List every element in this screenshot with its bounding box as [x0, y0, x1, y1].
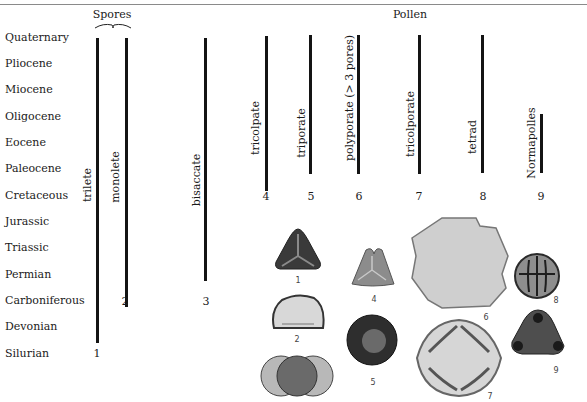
era-label: Pliocene [5, 58, 52, 70]
specimen-caption: 7 [487, 392, 492, 401]
range-bar-normapolles [540, 114, 543, 173]
specimen-polyporate-pollen [410, 216, 510, 310]
specimen-tetrad-pollen [513, 252, 561, 300]
specimen-normapolles-pollen [508, 308, 566, 358]
range-label-bisaccate: bisaccate [191, 154, 203, 207]
era-label: Miocene [5, 84, 53, 96]
range-bar-monolete [125, 38, 128, 307]
range-bar-tricolporate [418, 35, 421, 174]
range-bar-polyporate [357, 35, 360, 174]
pollen-header: Pollen [393, 8, 427, 21]
era-label: Quaternary [5, 32, 69, 44]
range-label-tetrad: tetrad [467, 120, 479, 154]
specimen-caption: 2 [294, 335, 299, 344]
spores-brace-icon [94, 22, 132, 30]
range-label-normapolles: Normapolles [526, 107, 538, 178]
range-number: 5 [308, 191, 315, 203]
era-label: Oligocene [5, 111, 61, 123]
range-number: 1 [94, 348, 101, 360]
range-number: 2 [122, 296, 129, 308]
specimen-caption: 8 [553, 296, 558, 305]
range-number: 4 [263, 191, 270, 203]
top-rule [0, 4, 587, 5]
specimen-caption: 4 [371, 295, 376, 304]
specimen-triporate-pollen [344, 313, 400, 367]
range-bar-tetrad [481, 35, 484, 173]
range-label-polyporate: polyporate (> 3 pores) [344, 35, 356, 161]
range-label-trilete: trilete [82, 168, 94, 202]
specimen-tricolporate-pollen [413, 318, 505, 398]
range-bar-trilete [96, 38, 99, 343]
specimen-monolete-spore [268, 292, 328, 334]
range-bar-bisaccate [204, 38, 207, 281]
era-label: Jurassic [5, 216, 49, 228]
range-number: 6 [356, 191, 363, 203]
specimen-caption: 1 [295, 276, 300, 285]
specimen-bisaccate-pollen [259, 352, 335, 400]
range-bar-tricolpate [265, 36, 268, 191]
range-number: 7 [416, 191, 423, 203]
era-label: Permian [5, 269, 51, 281]
specimen-trilete-spore [272, 226, 324, 276]
era-label: Triassic [5, 242, 49, 254]
era-label: Devonian [5, 321, 57, 333]
era-label: Carboniferous [5, 295, 85, 307]
specimen-tricolpate-pollen [344, 244, 400, 288]
range-number: 9 [538, 191, 545, 203]
era-label: Eocene [5, 137, 46, 149]
range-number: 8 [480, 191, 487, 203]
spores-header: Spores [93, 8, 132, 21]
specimen-caption: 9 [553, 366, 558, 375]
range-label-tricolporate: tricolporate [405, 91, 417, 157]
era-label: Cretaceous [5, 190, 68, 202]
specimen-caption: 5 [370, 378, 375, 387]
range-label-monolete: monolete [110, 151, 122, 203]
range-bar-triporate [309, 35, 312, 174]
range-label-tricolpate: tricolpate [250, 101, 262, 155]
range-label-triporate: triporate [296, 108, 308, 158]
era-label: Paleocene [5, 163, 61, 175]
era-label: Silurian [5, 348, 49, 360]
range-number: 3 [203, 296, 210, 308]
